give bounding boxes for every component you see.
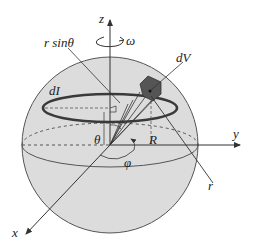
label-R: R bbox=[148, 132, 157, 147]
label-dV: dV bbox=[176, 50, 193, 65]
label-theta: θ bbox=[94, 132, 101, 147]
label-y: y bbox=[231, 126, 239, 141]
label-omega: ω bbox=[126, 33, 135, 48]
sphere-diagram: z r sinθ ω dV dI θ R y φ r x bbox=[0, 0, 255, 250]
label-r: r bbox=[208, 178, 214, 193]
label-z: z bbox=[98, 11, 104, 26]
label-x: x bbox=[11, 225, 18, 240]
label-dI: dI bbox=[49, 83, 61, 98]
label-r-sin-theta: r sinθ bbox=[44, 35, 74, 50]
label-phi: φ bbox=[124, 155, 131, 170]
